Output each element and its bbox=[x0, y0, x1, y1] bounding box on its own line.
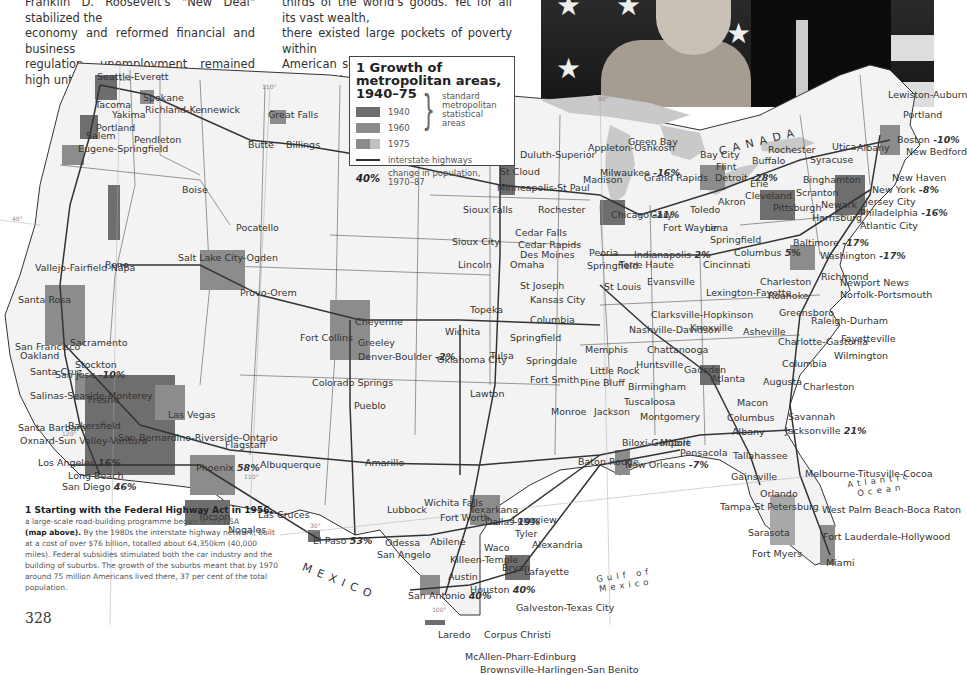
city-name: Columbus bbox=[734, 247, 781, 258]
city-name: St Joseph bbox=[520, 280, 564, 291]
city-name: Newport News bbox=[840, 277, 909, 288]
population-change: 2% bbox=[691, 249, 710, 260]
city-label: Washington -17% bbox=[820, 251, 906, 261]
city-name: Binghamton bbox=[803, 174, 861, 185]
city-label: Atlantic City bbox=[860, 221, 918, 231]
city-label: San Angelo bbox=[377, 550, 431, 560]
city-label: Baltimore -17% bbox=[793, 238, 869, 248]
legend-swatch bbox=[356, 123, 380, 133]
population-change: -10% bbox=[95, 369, 125, 380]
city-name: Jackson bbox=[594, 406, 630, 417]
city-label: Monroe bbox=[551, 407, 586, 417]
population-change: 16% bbox=[95, 457, 121, 468]
city-label: Sacramento bbox=[70, 338, 127, 348]
city-label: West Palm Beach-Boca Raton bbox=[822, 505, 961, 515]
city-name: Omaha bbox=[510, 259, 544, 270]
city-label: Orlando bbox=[760, 489, 798, 499]
city-label: Grand Rapids bbox=[644, 173, 708, 183]
city-label: Pittsburgh bbox=[773, 203, 821, 213]
city-label: Phoenix 58% bbox=[196, 463, 260, 473]
city-name: Billings bbox=[286, 139, 320, 150]
city-label: New Bedford bbox=[906, 147, 967, 157]
city-label: Provo-Orem bbox=[240, 288, 297, 298]
city-label: Columbia bbox=[530, 315, 575, 325]
city-label: Amarillo bbox=[365, 458, 404, 468]
city-label: Clarksville-Hopkinson bbox=[651, 310, 753, 320]
city-label: Portland bbox=[903, 110, 942, 120]
city-label: St Joseph bbox=[520, 281, 564, 291]
city-label: Lincoln bbox=[458, 260, 492, 270]
city-name: Detroit bbox=[715, 172, 748, 183]
city-label: Savannah bbox=[788, 412, 835, 422]
city-name: Abilene bbox=[430, 536, 466, 547]
city-label: Oakland bbox=[20, 351, 59, 361]
city-name: Amarillo bbox=[365, 457, 404, 468]
city-label: Boise bbox=[182, 185, 208, 195]
city-label: Lawton bbox=[470, 389, 504, 399]
city-label: Pocatello bbox=[236, 223, 279, 233]
city-label: Huntsville bbox=[636, 360, 683, 370]
city-label: Rochester bbox=[538, 205, 586, 215]
city-label: Eugene-Springfield bbox=[78, 144, 168, 154]
caption-line: a large-scale road-building programme be… bbox=[25, 516, 280, 527]
city-label: Flint bbox=[716, 162, 737, 172]
city-name: Long Beach bbox=[68, 470, 123, 481]
city-name: Alexandria bbox=[532, 539, 583, 550]
city-name: Tallahassee bbox=[733, 450, 788, 461]
city-name: Charleston bbox=[803, 381, 854, 392]
city-label: Utica bbox=[832, 142, 856, 152]
city-name: Raleigh-Durham bbox=[811, 315, 888, 326]
city-label: Montgomery bbox=[640, 412, 700, 422]
city-label: New Orleans -7% bbox=[625, 460, 709, 470]
city-name: Fort Lauderdale-Hollywood bbox=[823, 531, 950, 542]
city-name: McAllen-Pharr-Edinburg bbox=[465, 651, 576, 662]
city-name: Clarksville-Hopkinson bbox=[651, 309, 753, 320]
city-name: Corpus Christi bbox=[484, 629, 551, 640]
city-name: Akron bbox=[718, 196, 746, 207]
city-label: Spokane bbox=[143, 93, 184, 103]
meridian-label: 100° bbox=[432, 606, 446, 613]
city-label: Fort Collins bbox=[300, 333, 353, 343]
legend-swatch bbox=[356, 107, 380, 117]
city-name: Sacramento bbox=[70, 337, 127, 348]
city-name: Portland bbox=[903, 109, 942, 120]
city-label: Longview bbox=[512, 515, 557, 525]
city-label: San Jose -10% bbox=[55, 370, 125, 380]
meridian-label: 110° bbox=[244, 473, 258, 480]
city-name: Lewiston-Auburn bbox=[888, 89, 967, 100]
city-name: Monroe bbox=[551, 406, 586, 417]
city-name: Santa Rosa bbox=[18, 294, 71, 305]
city-name: Lafayette bbox=[524, 566, 569, 577]
city-name: Toledo bbox=[690, 204, 720, 215]
star-icon: ★ bbox=[616, 0, 641, 20]
city-label: Long Beach bbox=[68, 471, 123, 481]
city-label: New Haven bbox=[892, 173, 946, 183]
city-label: Jersey City bbox=[865, 197, 916, 207]
city-label: St Louis bbox=[604, 282, 641, 292]
population-change: 40% bbox=[509, 584, 535, 595]
city-label: Jacksonville 21% bbox=[785, 426, 867, 436]
legend-group-label: standard metropolitan statistical areas bbox=[442, 92, 502, 128]
city-label: Sarasota bbox=[748, 528, 790, 538]
city-label: Fort Myers bbox=[752, 549, 802, 559]
city-label: Boston -10% bbox=[897, 135, 960, 145]
city-name: Terre Haute bbox=[619, 259, 674, 270]
population-change: -17% bbox=[876, 250, 906, 261]
city-label: Little Rock bbox=[590, 366, 640, 376]
city-label: Charleston bbox=[760, 277, 811, 287]
legend-swatch bbox=[356, 139, 380, 149]
population-change: -16% bbox=[918, 207, 948, 218]
city-name: Vallejo-Fairfield-Napa bbox=[35, 262, 135, 273]
city-name: Syracuse bbox=[810, 154, 853, 165]
city-name: Richland-Kennewick bbox=[145, 104, 240, 115]
city-name: Greeley bbox=[358, 337, 395, 348]
population-change: -7% bbox=[685, 459, 708, 470]
city-label: Miami bbox=[826, 558, 855, 568]
city-label: Tampa-St Petersburg bbox=[720, 502, 819, 512]
city-name: Colorado Springs bbox=[312, 377, 393, 388]
city-name: Washington bbox=[820, 250, 876, 261]
city-label: Chattanooga bbox=[647, 345, 708, 355]
city-label: New York -8% bbox=[872, 185, 939, 195]
city-label: Erie bbox=[750, 179, 768, 189]
legend-item-highways: interstate highways bbox=[356, 152, 508, 168]
